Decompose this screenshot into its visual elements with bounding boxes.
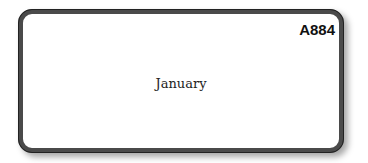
label-card: A884 January (18, 9, 344, 153)
card-label: January (23, 76, 339, 91)
card-code: A884 (299, 21, 335, 38)
